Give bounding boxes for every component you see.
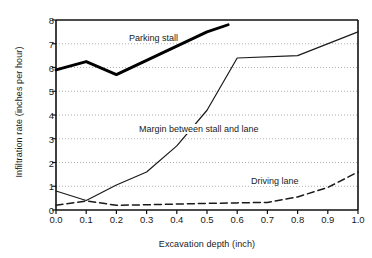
axis-tick-marks bbox=[52, 20, 358, 214]
x-axis-title: Excavation depth (inch) bbox=[56, 239, 358, 249]
gridlines bbox=[56, 44, 358, 187]
x-tick-label: 0.9 bbox=[311, 214, 345, 225]
x-tick-label: 0.7 bbox=[250, 214, 284, 225]
series-line-margin-between-stall-and-lane bbox=[56, 32, 358, 201]
series-label-driving-lane: Driving lane bbox=[250, 176, 300, 186]
series-line-driving-lane bbox=[56, 172, 358, 205]
series-label-parking-stall: Parking stall bbox=[128, 33, 179, 43]
x-tick-label: 0.6 bbox=[220, 214, 254, 225]
x-tick-label: 0.3 bbox=[130, 214, 164, 225]
x-tick-label: 0.0 bbox=[39, 214, 73, 225]
x-tick-label: 0.8 bbox=[281, 214, 315, 225]
series-label-margin-between-stall-and-lane: Margin between stall and lane bbox=[138, 124, 260, 134]
x-tick-label: 0.5 bbox=[190, 214, 224, 225]
x-tick-label: 1.0 bbox=[341, 214, 372, 225]
x-tick-label: 0.1 bbox=[69, 214, 103, 225]
infiltration-rate-chart: Infiltration rate (inches per hour) 0123… bbox=[0, 0, 372, 258]
x-tick-label: 0.2 bbox=[99, 214, 133, 225]
x-tick-label: 0.4 bbox=[160, 214, 194, 225]
